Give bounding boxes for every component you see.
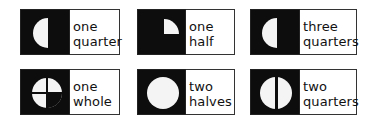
card-two-halves: two halves <box>137 69 235 115</box>
quarter-circle-icon <box>137 9 186 55</box>
circle-with-vertical-line-icon <box>250 69 300 115</box>
left-half-circle-icon <box>250 9 300 55</box>
label-line-2: quarters <box>303 34 353 49</box>
card-one-half: one half <box>137 9 235 55</box>
label-line-2: halves <box>189 94 231 109</box>
label-box: two quarters <box>300 69 357 115</box>
card-two-quarters: two quarters <box>250 69 357 115</box>
label-line-2: quarters <box>303 94 353 109</box>
card-one-whole: one whole <box>20 69 120 115</box>
label-line-1: one <box>189 19 231 34</box>
label-box: three quarters <box>300 9 357 55</box>
label-line-1: one <box>73 19 116 34</box>
label-box: one half <box>186 9 235 55</box>
circle-with-cross-icon <box>20 69 70 115</box>
full-circle-icon <box>137 69 186 115</box>
card-three-quarters: three quarters <box>250 9 357 55</box>
label-line-1: two <box>189 79 231 94</box>
label-box: two halves <box>186 69 235 115</box>
label-line-1: two <box>303 79 353 94</box>
label-box: one whole <box>70 69 120 115</box>
label-line-2: whole <box>73 94 116 109</box>
label-line-2: quarter <box>73 34 116 49</box>
card-one-quarter: one quarter <box>20 9 120 55</box>
label-line-1: three <box>303 19 353 34</box>
label-box: one quarter <box>70 9 120 55</box>
label-line-2: half <box>189 34 231 49</box>
left-half-circle-icon <box>20 9 70 55</box>
label-line-1: one <box>73 79 116 94</box>
